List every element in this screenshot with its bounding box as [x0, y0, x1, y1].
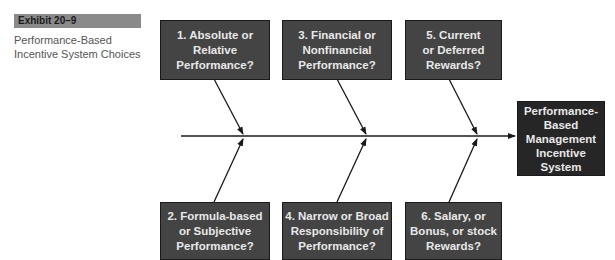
cause-box-1: 1. Absolute or Relative Performance? — [160, 20, 270, 80]
bone-4 — [337, 139, 366, 202]
bone-2 — [214, 139, 243, 202]
bone-6 — [449, 139, 477, 202]
cause-box-5: 5. Current or Deferred Rewards? — [405, 20, 502, 80]
cause-box-2: 2. Formula-based or Subjective Performan… — [160, 202, 270, 260]
bone-5 — [449, 79, 477, 134]
bone-3 — [337, 79, 366, 134]
cause-box-3: 3. Financial or Nonfinancial Performance… — [282, 20, 392, 80]
cause-box-6: 6. Salary, or Bonus, or stock Rewards? — [405, 202, 502, 260]
cause-box-4: 4. Narrow or Broad Responsibility of Per… — [282, 202, 392, 260]
effect-box: Performance- Based Management Incentive … — [517, 101, 605, 176]
bone-1 — [214, 79, 243, 134]
